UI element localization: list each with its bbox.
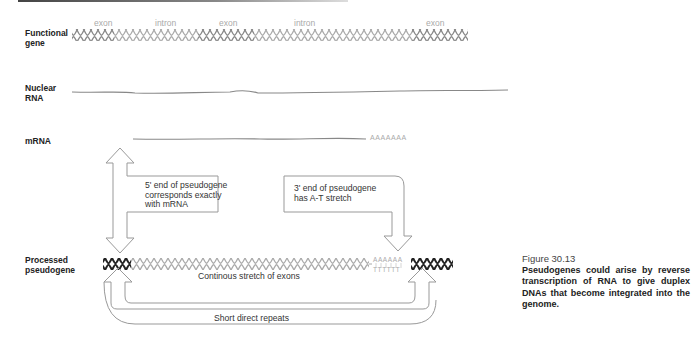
five-prime-callout-text: 5' end of pseudogene corresponds exactly… (145, 181, 227, 210)
figure-caption: Figure 30.13 Pseudogenes could arise by … (522, 253, 690, 311)
figure-number: Figure 30.13 (522, 253, 690, 265)
three-prime-callout-text: 3' end of pseudogene has A-T stretch (294, 184, 376, 203)
callout-line: with mRNA (145, 200, 227, 210)
exon-stretch-label: Continous stretch of exons (198, 271, 300, 281)
at-stretch-a-strand: AAAAAA (373, 256, 403, 263)
poly-a-tail: AAAAAAA (370, 134, 407, 141)
functional-gene-helix (72, 29, 468, 41)
direct-repeats-label: Short direct repeats (214, 313, 289, 323)
at-stretch-t-strand: TTTTTT (373, 266, 400, 273)
callout-line: has A-T stretch (294, 194, 376, 204)
figure-description: Pseudogenes could arise by reverse trans… (522, 265, 690, 311)
nuclear-rna-strand (72, 90, 508, 93)
mrna-strand (133, 138, 366, 139)
